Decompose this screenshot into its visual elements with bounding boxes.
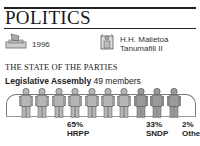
title-rule — [4, 28, 196, 29]
head-of-state-name-line1: H.H. Malietoa — [120, 35, 168, 44]
member-figure-hrpp — [19, 88, 33, 118]
label-other: 2% Other — [182, 121, 200, 138]
member-figure-sndp — [150, 88, 164, 118]
hrpp-name: HRPP — [67, 130, 89, 139]
head-of-state-icon — [100, 33, 114, 50]
member-figure-hrpp — [68, 88, 82, 118]
label-sndp: 33% SNDP — [146, 121, 168, 138]
section-title: THE STATE OF THE PARTIES — [5, 62, 118, 72]
election-year: 1996 — [32, 40, 50, 49]
member-figure-sndp — [134, 88, 148, 118]
page-title: POLITICS — [5, 8, 91, 28]
member-figure-hrpp — [85, 88, 99, 118]
member-figure-hrpp — [35, 88, 49, 118]
sndp-name: SNDP — [146, 130, 168, 139]
other-name: Other — [182, 130, 200, 139]
assembly-name: Legislative Assembly — [5, 76, 91, 86]
assembly-members: 49 members — [94, 76, 141, 86]
label-hrpp: 65% HRPP — [67, 121, 89, 138]
assembly-heading: Legislative Assembly 49 members — [5, 76, 141, 86]
head-of-state-name-line2: Tanumafili II — [120, 44, 163, 53]
member-figure-hrpp — [101, 88, 115, 118]
member-figure-hrpp — [52, 88, 66, 118]
ballot-box-icon — [5, 33, 27, 49]
member-figure-sndp — [167, 88, 181, 118]
member-figure-hrpp — [117, 88, 131, 118]
